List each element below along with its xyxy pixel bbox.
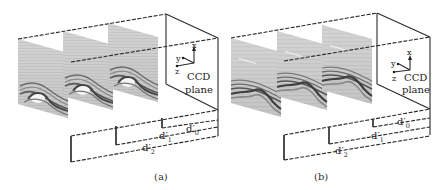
caption-b: (b) [314,171,328,182]
distance-label-d2: d′2 [335,145,348,159]
distance-label-d2: d′2 [142,142,155,156]
image-plane-middle [277,31,327,110]
distance-label-d1: d′1 [371,130,384,144]
image-plane-far [231,38,281,117]
caption-a: (a) [154,171,168,182]
distance-markers [284,109,430,160]
image-plane-near [322,25,372,104]
distance-label-d1: d′1 [159,130,172,144]
image-plane-near [108,23,158,102]
distance-label-d0: d′0 [186,123,199,137]
distance-label-d0: d′0 [397,116,410,130]
top-right-edge [377,13,430,37]
z-axis-label: z [392,74,396,83]
ccd-label: CCD [404,72,427,83]
plane-label: plane [402,84,430,95]
back-top-edge [231,13,377,38]
panel-b: x y z CCD plane d′0 d′1 d′2 (b) [231,13,430,182]
z-axis-label: z [175,67,179,76]
y-axis-label: y [175,54,181,63]
figure-canvas: x y z CCD plane d′0 d′1 d′2 (a) [0,0,447,190]
plane-label: plane [185,84,213,95]
image-plane-middle [63,31,113,110]
y-axis-label: y [390,59,396,68]
panel-a: x y z CCD plane d′0 d′1 d′2 (a) [18,14,218,182]
x-axis-label: x [407,48,412,57]
top-right-edge [166,14,218,38]
ccd-label: CCD [187,71,210,82]
x-axis-label: x [192,41,197,50]
image-plane-far [18,39,68,118]
